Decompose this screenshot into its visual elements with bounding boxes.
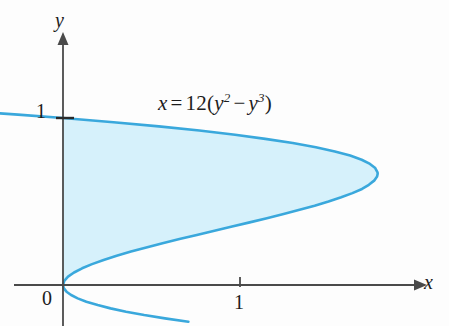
plot-canvas (0, 0, 449, 326)
equation-equals: = (168, 91, 186, 115)
equation-close-paren: ) (265, 91, 272, 115)
equation-coefficient: 12 (186, 91, 207, 115)
equation-annotation: x=12(y2−y3) (158, 93, 272, 114)
equation-term2-base: y (248, 91, 258, 115)
equation-term2-exponent: 3 (258, 90, 265, 105)
origin-label: 0 (42, 288, 52, 308)
y-axis-arrowhead (58, 32, 69, 45)
y-axis-label: y (55, 10, 64, 30)
equation-term1-base: y (214, 91, 224, 115)
equation-minus: − (230, 91, 248, 115)
figure-container: x=12(y2−y3) y x 1 1 0 (0, 0, 449, 326)
x-axis-tick-label-1: 1 (234, 292, 244, 312)
y-axis-tick-label-1: 1 (36, 101, 46, 121)
equation-lhs: x (158, 91, 168, 115)
x-axis-label: x (424, 272, 433, 292)
